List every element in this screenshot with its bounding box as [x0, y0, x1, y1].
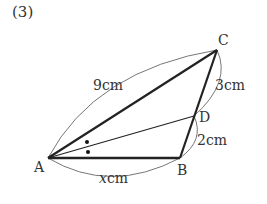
length-label-db: 2cm — [197, 133, 227, 147]
length-label-ab: xcm — [99, 171, 128, 185]
angle-mark-dot-upper — [85, 140, 89, 144]
point-label-c: C — [218, 33, 229, 47]
point-label-d: D — [199, 110, 210, 124]
angle-mark-dot-lower — [86, 150, 90, 154]
bisector-ad — [48, 116, 194, 158]
side-ac — [48, 50, 217, 158]
length-label-cd: 3cm — [215, 78, 245, 92]
length-label-ac: 9cm — [93, 78, 123, 92]
point-label-b: B — [177, 163, 187, 177]
length-label-ab-variable: x — [99, 170, 107, 186]
length-label-ab-unit: cm — [107, 170, 128, 186]
point-label-a: A — [34, 160, 44, 174]
